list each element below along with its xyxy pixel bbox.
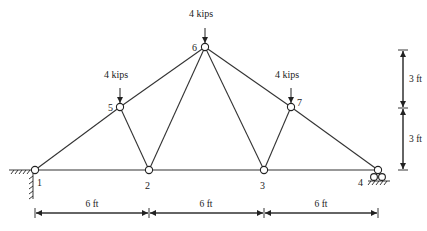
horizontal-dim-label: 6 ft — [315, 199, 328, 209]
member-7-4 — [291, 107, 378, 170]
load-label: 4 kips — [275, 69, 299, 80]
node-1-joint — [31, 166, 38, 173]
member-5-6 — [120, 47, 205, 107]
node-4-joint — [374, 166, 381, 173]
pin-support-node-1 — [9, 170, 33, 199]
horizontal-dim-label: 6 ft — [86, 199, 99, 209]
node-label: 6 — [192, 42, 197, 53]
vertical-dim-label: 3 ft — [409, 74, 422, 84]
member-6-3 — [205, 47, 264, 170]
node-label: 5 — [108, 102, 113, 113]
load-label: 4 kips — [189, 8, 213, 19]
node-label: 7 — [297, 97, 302, 108]
member-3-7 — [264, 107, 291, 170]
member-5-2 — [120, 107, 149, 170]
roller-support-node-4 — [368, 174, 390, 185]
node-5-joint — [116, 103, 123, 110]
load-label: 4 kips — [104, 69, 128, 80]
node-label: 1 — [37, 177, 42, 188]
truss-diagram: 4 kips4 kips4 kips 1234567 6 ft6 ft6 ft3… — [0, 0, 427, 231]
node-6-joint — [201, 43, 208, 50]
dimension-lines: 6 ft6 ft6 ft3 ft3 ft — [35, 50, 422, 218]
node-label: 4 — [358, 177, 363, 188]
vertical-dim-label: 3 ft — [409, 134, 422, 144]
node-7-joint — [287, 103, 294, 110]
node-label: 2 — [145, 180, 150, 191]
truss-members — [35, 47, 378, 170]
member-1-5 — [35, 107, 120, 170]
truss-nodes: 1234567 — [31, 42, 381, 191]
horizontal-dim-label: 6 ft — [200, 199, 213, 209]
node-3-joint — [260, 166, 267, 173]
node-2-joint — [145, 166, 152, 173]
node-label: 3 — [260, 180, 265, 191]
supports — [9, 170, 390, 199]
member-2-6 — [149, 47, 205, 170]
